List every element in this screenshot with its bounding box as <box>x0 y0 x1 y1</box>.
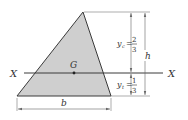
triangle-section-diagram: X X G h y c = 2 3 y t <box>0 0 188 120</box>
svg-text:t: t <box>122 84 125 90</box>
axis-label-left: X <box>9 68 18 79</box>
centroid-dot <box>73 72 76 75</box>
base-label: b <box>61 98 67 108</box>
svg-text:c: c <box>122 43 125 49</box>
height-label: h <box>145 51 151 61</box>
svg-text:3: 3 <box>132 87 136 95</box>
svg-text:3: 3 <box>132 46 136 54</box>
yt-label: y t = 1 3 <box>116 77 137 95</box>
triangle-shape <box>17 12 111 96</box>
axis-label-right: X <box>167 68 176 79</box>
svg-text:1: 1 <box>132 77 136 85</box>
centroid-label: G <box>70 60 77 70</box>
yc-label: y c = 2 3 <box>116 36 137 54</box>
svg-text:2: 2 <box>132 36 136 44</box>
